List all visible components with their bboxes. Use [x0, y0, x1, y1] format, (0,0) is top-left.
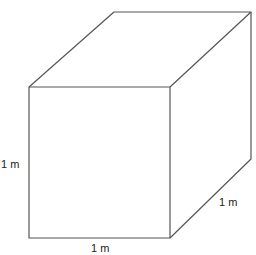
cube-front-face [29, 87, 170, 238]
depth-label: 1 m [219, 196, 237, 208]
height-label: 1 m [1, 158, 19, 170]
cube-top-face [29, 12, 251, 87]
cube-right-face [170, 12, 251, 238]
cube-diagram: 1 m 1 m 1 m [0, 0, 256, 255]
width-label: 1 m [91, 242, 109, 254]
